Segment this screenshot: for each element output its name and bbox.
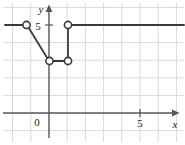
axes bbox=[3, 11, 172, 138]
open-circle-upper-right bbox=[64, 21, 71, 28]
y-axis-arrow bbox=[46, 5, 53, 13]
axis-ticks bbox=[45, 25, 140, 117]
x-axis-arrow bbox=[172, 110, 180, 117]
open-circle-upper-left bbox=[23, 21, 30, 28]
y-axis-label: y bbox=[38, 3, 44, 15]
y-tick-label-5: 5 bbox=[35, 20, 41, 32]
x-tick-label-5: 5 bbox=[137, 117, 143, 129]
x-axis-label: x bbox=[172, 118, 178, 130]
coordinate-plane-svg: 0 5 5 y x bbox=[0, 0, 185, 145]
open-circle-lower-right bbox=[64, 57, 71, 64]
open-circle-lower-left bbox=[46, 57, 53, 64]
graph-figure: 0 5 5 y x bbox=[0, 0, 185, 145]
x-tick-label-0: 0 bbox=[34, 116, 40, 128]
